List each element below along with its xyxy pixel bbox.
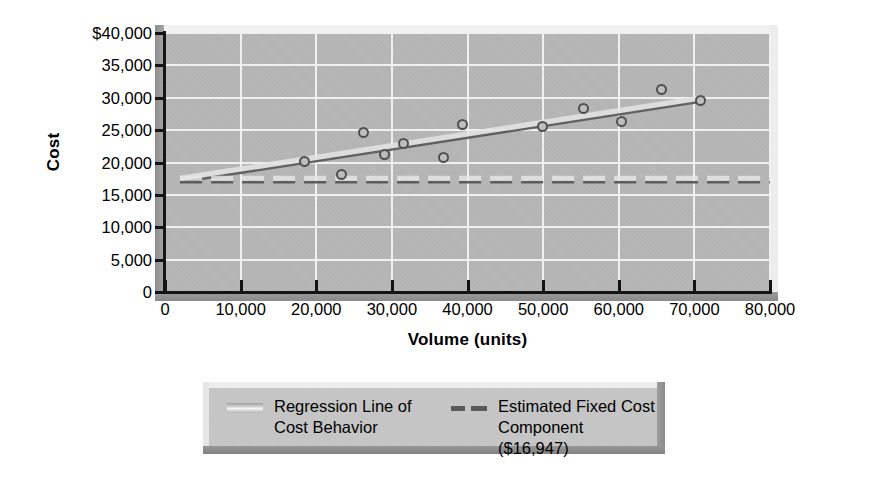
x-axis-tick-mark bbox=[542, 280, 545, 292]
data-point-marker bbox=[379, 149, 390, 160]
data-point-marker bbox=[299, 156, 310, 167]
data-point-marker bbox=[616, 116, 627, 127]
x-axis-tick-mark bbox=[618, 280, 621, 292]
data-point-marker bbox=[398, 138, 409, 149]
x-axis-tick-mark bbox=[769, 280, 772, 292]
x-axis-tick-mark bbox=[467, 280, 470, 292]
y-axis-tick-mark bbox=[155, 259, 165, 262]
legend-entry-fixed-cost: Estimated Fixed Cost Component ($16,947) bbox=[451, 396, 657, 459]
data-point-marker bbox=[695, 95, 706, 106]
chart-legend: Regression Line of Cost Behavior Estimat… bbox=[203, 382, 665, 454]
y-axis-tick-labels: 05,00010,00015,00020,00025,00030,00035,0… bbox=[48, 24, 152, 302]
x-axis-tick-mark bbox=[693, 280, 696, 292]
legend-swatch-solid-line-icon bbox=[227, 403, 263, 413]
regression-line-highlight bbox=[180, 99, 702, 180]
data-point-marker bbox=[358, 127, 369, 138]
y-axis-tick-label: 30,000 bbox=[48, 89, 152, 107]
x-axis-tick-mark bbox=[164, 280, 167, 292]
regression-line bbox=[180, 102, 702, 183]
x-axis-tick-label: 80,000 bbox=[710, 300, 830, 319]
x-axis-tick-mark bbox=[240, 280, 243, 292]
legend-entry-regression-line: Regression Line of Cost Behavior bbox=[227, 396, 412, 438]
x-axis-tick-mark bbox=[315, 280, 318, 292]
legend-swatch-dashed-line-icon bbox=[451, 406, 487, 411]
legend-right-shadow bbox=[657, 382, 665, 454]
plot-area bbox=[165, 33, 770, 292]
y-axis-tick-mark bbox=[155, 97, 165, 100]
y-axis-tick-label: $40,000 bbox=[48, 24, 152, 42]
y-axis-tick-label: 0 bbox=[48, 283, 152, 301]
y-axis-tick-label: 35,000 bbox=[48, 56, 152, 74]
y-axis-tick-mark bbox=[155, 194, 165, 197]
y-axis-tick-mark bbox=[155, 162, 165, 165]
x-axis-tick-mark bbox=[391, 280, 394, 292]
y-axis-tick-mark bbox=[155, 32, 165, 35]
y-axis-tick-label: 15,000 bbox=[48, 186, 152, 204]
legend-label-regression-line: Regression Line of Cost Behavior bbox=[274, 396, 412, 438]
legend-face: Regression Line of Cost Behavior Estimat… bbox=[209, 388, 657, 446]
cost-behavior-regression-chart: Cost 05,00010,00015,00020,00025,00030,00… bbox=[0, 0, 870, 480]
plot-frame-right-highlight bbox=[770, 25, 778, 301]
y-axis-tick-mark bbox=[155, 64, 165, 67]
y-axis-tick-mark bbox=[155, 226, 165, 229]
y-axis-tick-label: 25,000 bbox=[48, 121, 152, 139]
x-axis-title: Volume (units) bbox=[165, 330, 770, 350]
legend-label-fixed-cost: Estimated Fixed Cost Component ($16,947) bbox=[498, 396, 657, 459]
y-axis-tick-label: 20,000 bbox=[48, 154, 152, 172]
y-axis-tick-mark bbox=[155, 129, 165, 132]
y-axis-tick-label: 5,000 bbox=[48, 251, 152, 269]
data-point-marker bbox=[578, 103, 589, 114]
y-axis-tick-label: 10,000 bbox=[48, 218, 152, 236]
series-layer bbox=[165, 33, 770, 292]
